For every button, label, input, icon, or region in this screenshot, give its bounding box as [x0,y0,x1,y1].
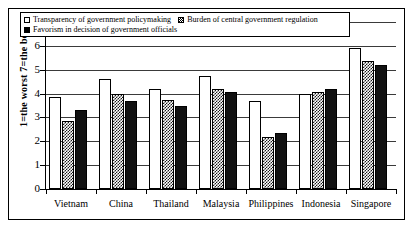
bar [275,133,287,189]
x-tick-label-malaysia: Malaysia [196,198,246,209]
legend-item-favorism: Favorism in decision of government offic… [24,25,177,35]
y-tick-label-2: 2 [24,135,40,146]
x-tick-label-indonesia: Indonesia [296,198,346,209]
bar [225,92,237,189]
bar [325,89,337,189]
bar [149,89,161,189]
plot-area: 01234567VietnamChinaThailandMalaysiaPhil… [45,22,396,190]
y-tick-label-4: 4 [24,88,40,99]
x-tick [146,189,147,194]
y-tick-label-3: 3 [24,111,40,122]
bar [99,79,111,189]
legend-label-transparency: Transparency of government policymaking [33,15,171,24]
x-tick [96,189,97,194]
bar [349,48,361,189]
legend-item-transparency: Transparency of government policymaking [24,15,171,25]
x-tick-label-china: China [96,198,146,209]
bar-group [146,22,196,189]
x-tick-label-thailand: Thailand [146,198,196,209]
legend-row-2: Favorism in decision of government offic… [24,25,346,35]
bar [175,106,187,190]
x-tick [396,189,397,194]
legend-swatch-filled-square-icon [24,27,30,33]
bar [125,101,137,189]
bar [75,110,87,189]
y-tick-label-1: 1 [24,159,40,170]
x-tick-label-vietnam: Vietnam [46,198,96,209]
x-tick [296,189,297,194]
bar [49,97,61,189]
legend-swatch-open-square-icon [24,17,30,23]
bar-group [246,22,296,189]
legend-label-favorism: Favorism in decision of government offic… [33,25,177,34]
x-tick-label-singapore: Singapore [346,198,396,209]
x-tick [346,189,347,194]
bar [212,89,224,189]
bar [112,94,124,189]
y-tick-label-5: 5 [24,64,40,75]
chart-legend: Transparency of government policymaking … [20,12,350,37]
legend-label-burden: Burden of central government regulation [187,15,318,24]
bar-group [46,22,96,189]
legend-row-1: Transparency of government policymaking … [24,15,346,25]
bar [162,100,174,189]
bar [362,61,374,189]
x-tick [246,189,247,194]
bar [199,76,211,189]
bar [375,65,387,189]
bar [299,94,311,189]
y-tick-label-6: 6 [24,40,40,51]
x-tick [196,189,197,194]
bar [312,92,324,189]
bar-group [196,22,246,189]
bar [249,101,261,189]
legend-item-burden: Burden of central government regulation [178,15,318,25]
y-tick-label-0: 0 [24,183,40,194]
legend-swatch-checkered-square-icon [178,17,184,23]
bar [262,137,274,189]
bar-group [96,22,146,189]
x-tick-label-philippines: Philippines [246,198,296,209]
chart-figure: 1=the worst 7=the best Transparency of g… [8,8,405,220]
x-tick [46,189,47,194]
bar-group [346,22,396,189]
bar [62,121,74,189]
bar-group [296,22,346,189]
